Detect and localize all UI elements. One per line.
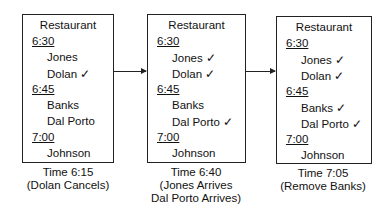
panel-title: Restaurant: [148, 19, 245, 31]
panel-title: Restaurant: [23, 19, 113, 31]
caption-line: Dal Porto Arrives): [136, 192, 256, 205]
checkmark-icon: ✓: [334, 69, 344, 83]
guest-entry: Dal Porto✓: [172, 115, 233, 129]
time-slot-label: 7:00: [32, 131, 54, 143]
checkmark-icon: ✓: [336, 101, 346, 115]
guest-name: Johnson: [47, 147, 90, 159]
guest-entry: Johnson: [172, 147, 215, 159]
checkmark-icon: ✓: [352, 117, 362, 131]
guest-name: Dal Porto: [172, 116, 220, 128]
time-slot-label: 6:30: [32, 35, 54, 47]
caption-line: (Jones Arrives: [136, 179, 256, 192]
checkmark-icon: ✓: [335, 53, 345, 67]
schedule-panel-1: Restaurant6:30JonesDolan✓6:45BanksDal Po…: [22, 14, 114, 163]
guest-entry: Jones✓: [301, 53, 345, 67]
transition-arrow-1: [114, 71, 146, 72]
guest-name: Jones: [47, 51, 78, 63]
time-slot-label: 7:00: [157, 131, 179, 143]
caption-line: Time 7:05: [263, 167, 383, 180]
panel-caption: Time 6:15(Dolan Cancels): [8, 166, 128, 192]
time-slot-label: 6:45: [286, 85, 308, 97]
guest-entry: Banks: [172, 99, 204, 111]
checkmark-icon: ✓: [206, 51, 216, 65]
guest-entry: Johnson: [301, 149, 344, 161]
guest-name: Jones: [172, 52, 203, 64]
schedule-panel-3: Restaurant6:30Jones✓Dolan✓6:45Banks✓Dal …: [276, 16, 372, 164]
guest-name: Dolan: [172, 68, 202, 80]
guest-name: Johnson: [172, 147, 215, 159]
time-slot-label: 7:00: [286, 133, 308, 145]
caption-line: (Dolan Cancels): [8, 179, 128, 192]
time-slot-label: 6:45: [32, 83, 54, 95]
guest-entry: Banks✓: [301, 101, 346, 115]
guest-name: Jones: [301, 54, 332, 66]
guest-entry: Dolan✓: [47, 67, 90, 81]
time-slot-label: 6:30: [157, 35, 179, 47]
time-slot-label: 6:30: [286, 37, 308, 49]
guest-name: Banks: [47, 99, 79, 111]
checkmark-icon: ✓: [80, 67, 90, 81]
panel-caption: Time 6:40(Jones ArrivesDal Porto Arrives…: [136, 166, 256, 205]
guest-name: Banks: [172, 99, 204, 111]
guest-name: Johnson: [301, 149, 344, 161]
transition-arrow-2: [246, 71, 275, 72]
guest-entry: Dolan✓: [172, 67, 215, 81]
caption-line: Time 6:15: [8, 166, 128, 179]
guest-entry: Banks: [47, 99, 79, 111]
caption-line: Time 6:40: [136, 166, 256, 179]
time-slot-label: 6:45: [157, 83, 179, 95]
guest-name: Dal Porto: [47, 115, 95, 127]
schedule-panel-2: Restaurant6:30Jones✓Dolan✓6:45BanksDal P…: [147, 14, 246, 163]
panel-caption: Time 7:05(Remove Banks): [263, 167, 383, 193]
checkmark-icon: ✓: [223, 115, 233, 129]
guest-entry: Dal Porto✓: [301, 117, 362, 131]
caption-line: (Remove Banks): [263, 180, 383, 193]
guest-entry: Jones: [47, 51, 78, 63]
guest-entry: Johnson: [47, 147, 90, 159]
guest-name: Banks: [301, 102, 333, 114]
guest-name: Dolan: [47, 68, 77, 80]
checkmark-icon: ✓: [205, 67, 215, 81]
guest-entry: Dolan✓: [301, 69, 344, 83]
guest-entry: Dal Porto: [47, 115, 95, 127]
guest-name: Dal Porto: [301, 118, 349, 130]
panel-title: Restaurant: [277, 21, 371, 33]
guest-name: Dolan: [301, 70, 331, 82]
guest-entry: Jones✓: [172, 51, 216, 65]
